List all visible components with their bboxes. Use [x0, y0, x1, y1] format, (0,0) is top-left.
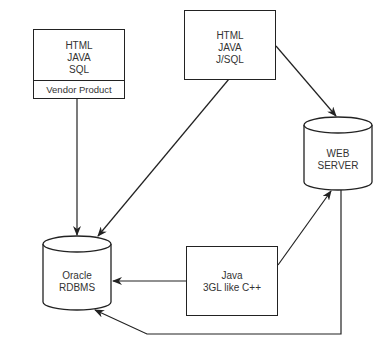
- vendor-product-label: Vendor Product: [34, 84, 124, 96]
- java-box-text: Java 3GL like C++: [187, 270, 277, 294]
- web-server-label: WEB SERVER: [304, 148, 372, 172]
- java-3gl-box: Java 3GL like C++: [186, 246, 278, 316]
- vendor-line-3: SQL: [34, 64, 124, 76]
- jsql-box-text: HTML JAVA J/SQL: [185, 30, 275, 66]
- jsql-line-3: J/SQL: [185, 54, 275, 66]
- java-line-1: Java: [187, 270, 277, 282]
- edge-java-to-webserver: [278, 191, 331, 265]
- web-server-line-1: WEB: [304, 148, 372, 160]
- edge-jsql-to-oracle: [98, 79, 229, 236]
- java-line-2: 3GL like C++: [187, 282, 277, 294]
- oracle-line-1: Oracle: [43, 270, 111, 282]
- vendor-line-2: JAVA: [34, 52, 124, 64]
- vendor-line-1: HTML: [34, 40, 124, 52]
- oracle-db-label: Oracle RDBMS: [43, 270, 111, 294]
- web-server-line-2: SERVER: [304, 160, 372, 172]
- vendor-box-text: HTML JAVA SQL: [34, 40, 124, 76]
- oracle-line-2: RDBMS: [43, 282, 111, 294]
- jsql-line-2: JAVA: [185, 42, 275, 54]
- jsql-box: HTML JAVA J/SQL: [184, 10, 276, 80]
- vendor-product-box: HTML JAVA SQL Vendor Product: [33, 29, 125, 99]
- edge-jsql-to-webserver: [276, 46, 336, 116]
- vendor-divider: [34, 80, 124, 81]
- jsql-line-1: HTML: [185, 30, 275, 42]
